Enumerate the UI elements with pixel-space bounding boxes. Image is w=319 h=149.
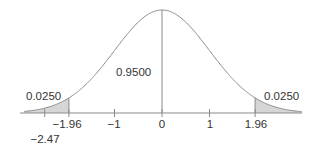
density-curve (24, 10, 301, 112)
left-tail-area-label: 0.0250 (26, 91, 61, 103)
tick-label-0: 0 (159, 119, 165, 131)
vertical-reference-lines (69, 10, 255, 113)
tick-label-neg1: −1 (107, 119, 120, 131)
tick-label-1: 1 (207, 119, 213, 131)
right-tail-area-label: 0.0250 (264, 91, 299, 103)
center-area-label: 0.9500 (116, 67, 151, 79)
mark-label-neg2-47: −2.47 (30, 134, 59, 146)
tick-label-neg1-96: −1.96 (52, 119, 81, 131)
tick-label-1-96: 1.96 (245, 119, 267, 131)
